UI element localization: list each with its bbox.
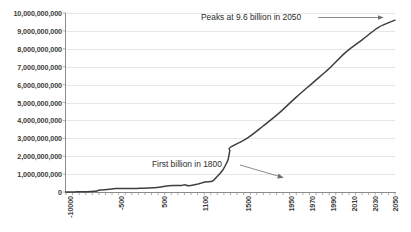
- x-tick-label: 1970: [308, 196, 317, 212]
- x-tick-label: 500: [160, 196, 169, 208]
- x-tick-label: 1950: [287, 196, 296, 212]
- x-tick-label: 1500: [244, 196, 253, 212]
- first-billion-annotation-leader-line: [240, 165, 283, 178]
- annotation-peak-label: Peaks at 9.6 billion in 2050: [201, 12, 301, 22]
- x-tick-label: -10000: [66, 196, 75, 218]
- x-axis-labels: -10000 -500 500 1100 1500 1950 1970 1990…: [0, 192, 411, 232]
- y-axis-tick-marks: [63, 13, 66, 192]
- population-curve-line: [66, 20, 395, 192]
- annotation-first-billion-label: First billion in 1800: [152, 159, 222, 169]
- x-tick-label: 1100: [201, 196, 210, 211]
- x-tick-label: 1990: [329, 196, 338, 212]
- x-tick-label: 2050: [391, 196, 400, 212]
- population-growth-chart: 10,000,000,000 9,000,000,000 8,000,000,0…: [0, 0, 411, 232]
- x-tick-label: -500: [117, 196, 126, 210]
- x-tick-label: 2010: [350, 196, 359, 212]
- x-tick-label: 2030: [371, 196, 380, 212]
